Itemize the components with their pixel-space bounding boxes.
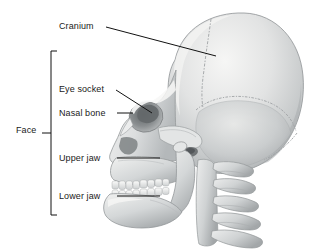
cervical-vertebrae [196,159,262,248]
vertebra [211,230,263,248]
label-nasal-bone: Nasal bone [59,108,106,119]
label-upper-jaw: Upper jaw [59,153,100,164]
skull-diagram: Cranium Eye socket Nasal bone Upper jaw … [0,0,319,252]
label-cranium: Cranium [59,21,94,32]
label-face: Face [16,125,36,136]
face-bracket [42,51,57,215]
label-lower-jaw: Lower jaw [59,191,100,202]
label-eye-socket: Eye socket [59,84,104,95]
skull-illustration [0,0,319,252]
